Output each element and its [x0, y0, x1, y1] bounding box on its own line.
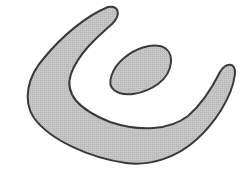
diagram-canvas [0, 0, 251, 184]
ellipse-shape [110, 46, 171, 95]
